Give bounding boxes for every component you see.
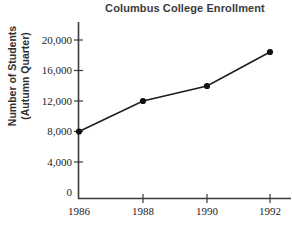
data-point-1992 — [267, 49, 273, 55]
data-line-enrollment — [79, 52, 270, 132]
data-point-1986 — [76, 128, 82, 134]
data-point-1990 — [204, 83, 210, 89]
data-point-1988 — [140, 98, 146, 104]
chart-figure: Columbus College Enrollment Number of St… — [0, 0, 293, 229]
plot-area — [0, 0, 293, 229]
